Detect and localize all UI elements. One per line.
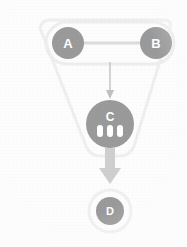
node-c-bar-1	[97, 125, 103, 137]
node-c-bar-2	[107, 125, 113, 137]
node-c-bar-3	[117, 125, 123, 137]
node-c-label: C	[106, 110, 115, 124]
diagram-svg: A B C D	[0, 0, 187, 247]
node-a-label: A	[63, 36, 73, 51]
diagram-canvas: A B C D	[0, 0, 187, 247]
edge-ab-c-arrowhead	[106, 90, 114, 99]
node-b-label: B	[151, 36, 160, 51]
node-d-label: D	[106, 205, 114, 217]
edge-c-d-block-arrow	[99, 148, 121, 184]
node-c[interactable]	[86, 100, 134, 148]
